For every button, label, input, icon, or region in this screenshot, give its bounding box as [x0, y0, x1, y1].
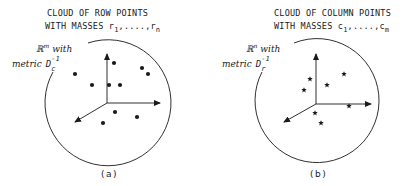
- panel-b-column-points: [301, 71, 351, 125]
- panel-a-axes: [75, 54, 160, 122]
- panel-a-title-line2: WITH MASSES r1,....,rn: [45, 21, 160, 34]
- panel-b-axes: [284, 54, 371, 122]
- panel-b-title-line1: CLOUD OF COLUMN POINTS: [274, 8, 391, 18]
- panel-a-row-points: [73, 61, 150, 125]
- panel-a-label: (a): [101, 169, 118, 179]
- panel-a-space-label: ℝmwith: [36, 42, 72, 54]
- row-point-dot-icon: [107, 83, 111, 87]
- column-point-star-icon: [312, 110, 317, 115]
- column-point-star-icon: [301, 87, 306, 92]
- panel-b-metric-label: metricDr-1: [222, 55, 270, 73]
- panel-a-title-line1: CLOUD OF ROW POINTS: [47, 8, 148, 18]
- panel-b-space-boundary: [255, 39, 379, 163]
- row-point-dot-icon: [118, 83, 122, 87]
- axis-diagonal-arrow-icon: [284, 104, 316, 122]
- axis-diagonal-arrow-icon: [75, 103, 107, 122]
- column-point-star-icon: [324, 82, 329, 87]
- panel-a: CLOUD OF ROW POINTS WITH MASSES r1,....,…: [12, 8, 171, 179]
- correspondence-analysis-diagram: CLOUD OF ROW POINTS WITH MASSES r1,....,…: [0, 0, 407, 186]
- row-point-dot-icon: [135, 115, 139, 119]
- row-point-dot-icon: [113, 110, 117, 114]
- column-point-star-icon: [307, 76, 312, 81]
- row-point-dot-icon: [140, 66, 144, 70]
- column-point-star-icon: [318, 120, 323, 125]
- row-point-dot-icon: [146, 72, 150, 76]
- column-point-star-icon: [341, 71, 346, 76]
- row-point-dot-icon: [90, 83, 94, 87]
- panel-b-space-label: ℝnwith: [246, 42, 280, 54]
- row-point-dot-icon: [73, 72, 77, 76]
- row-point-dot-icon: [112, 61, 116, 65]
- panel-b: CLOUD OF COLUMN POINTS WITH MASSES c1,..…: [222, 8, 391, 179]
- row-point-dot-icon: [101, 121, 105, 125]
- panel-a-metric-label: metricDc-1: [12, 55, 60, 73]
- panel-b-label: (b): [310, 169, 327, 179]
- panel-b-title-line2: WITH MASSES c1,....,cm: [274, 21, 389, 34]
